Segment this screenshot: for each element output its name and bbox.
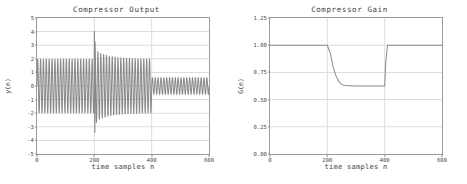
ytick-output-1: 4 bbox=[31, 29, 34, 35]
ytick-gain-3: 0.50 bbox=[254, 97, 267, 103]
chart-title-gain: Compressor Gain bbox=[233, 5, 466, 14]
panel-compressor-gain: Compressor Gain 1.25 1.00 bbox=[233, 0, 466, 184]
ytick-output-2: 3 bbox=[31, 42, 34, 48]
ytick-output-10: -5 bbox=[27, 151, 34, 157]
ytick-gain-0: 1.25 bbox=[254, 15, 267, 21]
ytick-output-0: 5 bbox=[31, 15, 34, 21]
plot-area-gain: 1.25 1.00 0.75 0.50 0.25 0.00 0 200 400 … bbox=[269, 17, 443, 155]
ytick-output-6: -1 bbox=[27, 97, 34, 103]
ytick-output-7: -2 bbox=[27, 110, 34, 116]
ytick-output-4: 1 bbox=[31, 69, 34, 75]
x-axis-label-output: time samples n bbox=[36, 163, 210, 171]
gain-plot-svg bbox=[270, 18, 442, 154]
compressor-figure: Compressor Output bbox=[0, 0, 467, 184]
gain-curve-trace bbox=[270, 45, 442, 86]
ytick-gain-1: 1.00 bbox=[254, 42, 267, 48]
x-axis-label-gain: time samples n bbox=[269, 163, 443, 171]
ytick-gain-4: 0.25 bbox=[254, 124, 267, 130]
y-axis-label-gain: G(n) bbox=[237, 78, 245, 94]
ytick-output-3: 2 bbox=[31, 56, 34, 62]
ytick-output-8: -3 bbox=[27, 124, 34, 130]
ytick-gain-5: 0.00 bbox=[254, 151, 267, 157]
ytick-output-9: -4 bbox=[27, 137, 34, 143]
output-signal-trace bbox=[37, 32, 209, 133]
chart-title-output: Compressor Output bbox=[0, 5, 233, 14]
y-axis-label-output: y(n) bbox=[4, 78, 12, 94]
plot-area-output: 5 4 3 2 1 0 -1 -2 -3 -4 -5 0 200 400 600 bbox=[36, 17, 210, 155]
panel-compressor-output: Compressor Output bbox=[0, 0, 233, 184]
output-plot-svg bbox=[37, 18, 209, 154]
ytick-gain-2: 0.75 bbox=[254, 69, 267, 75]
ytick-output-5: 0 bbox=[31, 83, 34, 89]
